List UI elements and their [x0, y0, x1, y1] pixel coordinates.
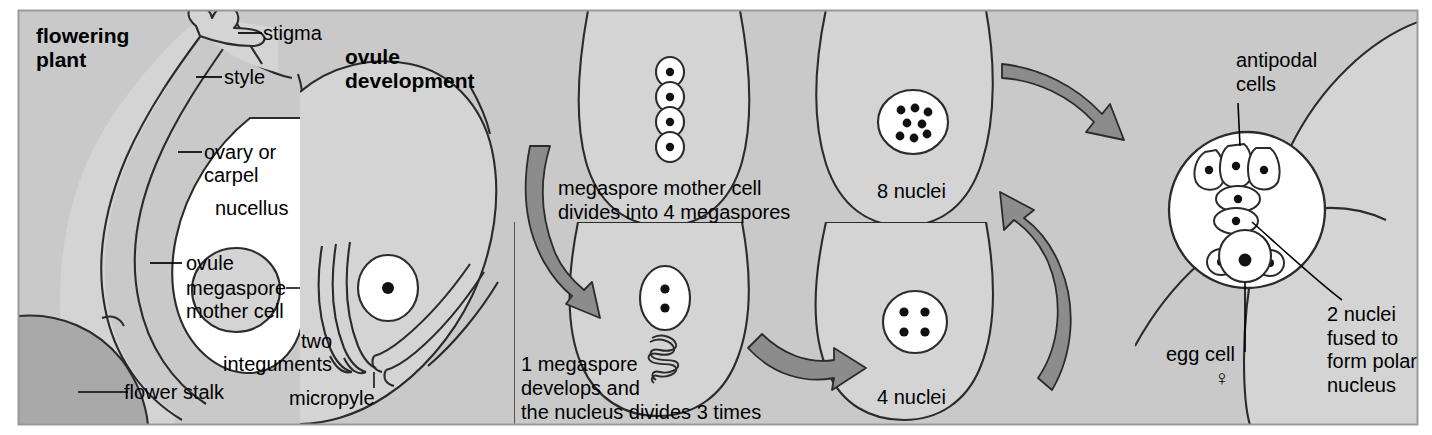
label-megaspore-line2: mother cell: [186, 300, 286, 323]
nucleus-2: [920, 307, 929, 316]
antipodal-nucleus-3: [1260, 166, 1268, 174]
panel2-heading-line2: development: [345, 69, 475, 93]
label-nucellus: nucellus: [215, 197, 288, 220]
label-style: style: [224, 66, 265, 89]
panel2-heading: ovule development: [345, 45, 475, 92]
megaspore-nucleus-a: [660, 284, 669, 293]
label-polar-line4: nucleus: [1327, 374, 1417, 398]
antipodal-nucleus-1: [1205, 166, 1213, 174]
panel3-caption-line2: divides into 4 megaspores: [558, 200, 790, 224]
label-egg-cell: egg cell: [1166, 343, 1235, 366]
panel2-heading-line1: ovule: [345, 45, 475, 69]
female-symbol-icon: ♀: [1214, 366, 1230, 390]
panel5-caption: 8 nuclei: [877, 180, 946, 203]
panel4-caption-line1: 1 megaspore: [521, 352, 761, 376]
megaspore-4-nucleus: [666, 143, 674, 151]
megaspore-1-nucleus: [666, 68, 674, 76]
nucleus-6: [896, 132, 905, 141]
panel1-heading: flowering plant: [36, 24, 129, 71]
label-micropyle: micropyle: [289, 387, 375, 410]
figure-root: flowering plant stigma style ovary or ca…: [0, 0, 1432, 435]
nucleus-1: [899, 307, 908, 316]
nucleus-3: [899, 327, 908, 336]
label-integuments: integuments: [190, 353, 332, 376]
embryo-sac-4: [883, 291, 947, 353]
label-ovary-or-carpel: ovary or carpel: [204, 141, 276, 187]
label-stigma: stigma: [263, 22, 322, 45]
label-antipodal-cells: antipodal cells: [1236, 49, 1317, 96]
nucleus-3: [924, 108, 933, 117]
nucleus-2: [911, 104, 920, 113]
antipodal-nucleus-2: [1232, 162, 1240, 170]
panel4-caption-line3: the nucleus divides 3 times: [521, 400, 761, 424]
label-two: two: [190, 330, 332, 353]
label-megaspore-mother-cell: megaspore mother cell: [186, 277, 286, 323]
megaspore-2-nucleus: [666, 93, 674, 101]
megaspore-mother-cell-nucleus: [382, 282, 394, 294]
antipodal-cells: [1194, 144, 1279, 190]
nucleus-8: [923, 130, 932, 139]
nucleus-1: [897, 106, 906, 115]
megaspore-nucleus-b: [660, 303, 669, 312]
label-flower-stalk: flower stalk: [124, 381, 224, 404]
nucleus-7: [910, 134, 919, 143]
label-ovary-line1: ovary or: [204, 141, 276, 164]
label-polar-nucleus: 2 nuclei fused to form polar nucleus: [1327, 303, 1417, 397]
polar-nucleus-2-dot: [1232, 217, 1240, 225]
label-polar-line1: 2 nuclei: [1327, 303, 1417, 327]
panel-four-nuclei: [795, 222, 1135, 425]
polar-nucleus-1-dot: [1234, 195, 1242, 203]
panel3-caption-line1: megaspore mother cell: [558, 176, 790, 200]
label-polar-line2: fused to: [1327, 327, 1417, 351]
label-ovule: ovule: [186, 252, 234, 275]
embryo-sac-8: [878, 90, 948, 154]
megaspore-3-nucleus: [666, 118, 674, 126]
label-antipodal-line2: cells: [1236, 73, 1317, 97]
egg-cell-nucleus: [1239, 254, 1252, 267]
nucleus-5: [918, 120, 927, 129]
nucleus-4: [903, 119, 912, 128]
panel6-caption: 4 nuclei: [877, 386, 946, 409]
label-polar-line3: form polar: [1327, 350, 1417, 374]
nucleus-4: [920, 327, 929, 336]
panel4-caption: 1 megaspore develops and the nucleus div…: [521, 352, 761, 424]
label-antipodal-line1: antipodal: [1236, 49, 1317, 73]
panel1-heading-line1: flowering: [36, 24, 129, 48]
label-ovary-line2: carpel: [204, 164, 276, 187]
label-two-integuments: two integuments: [190, 330, 332, 376]
panel3-caption: megaspore mother cell divides into 4 meg…: [558, 176, 790, 224]
panel1-heading-line2: plant: [36, 48, 129, 72]
label-megaspore-line1: megaspore: [186, 277, 286, 300]
panel4-caption-line2: develops and: [521, 376, 761, 400]
developing-megaspore: [640, 266, 690, 330]
